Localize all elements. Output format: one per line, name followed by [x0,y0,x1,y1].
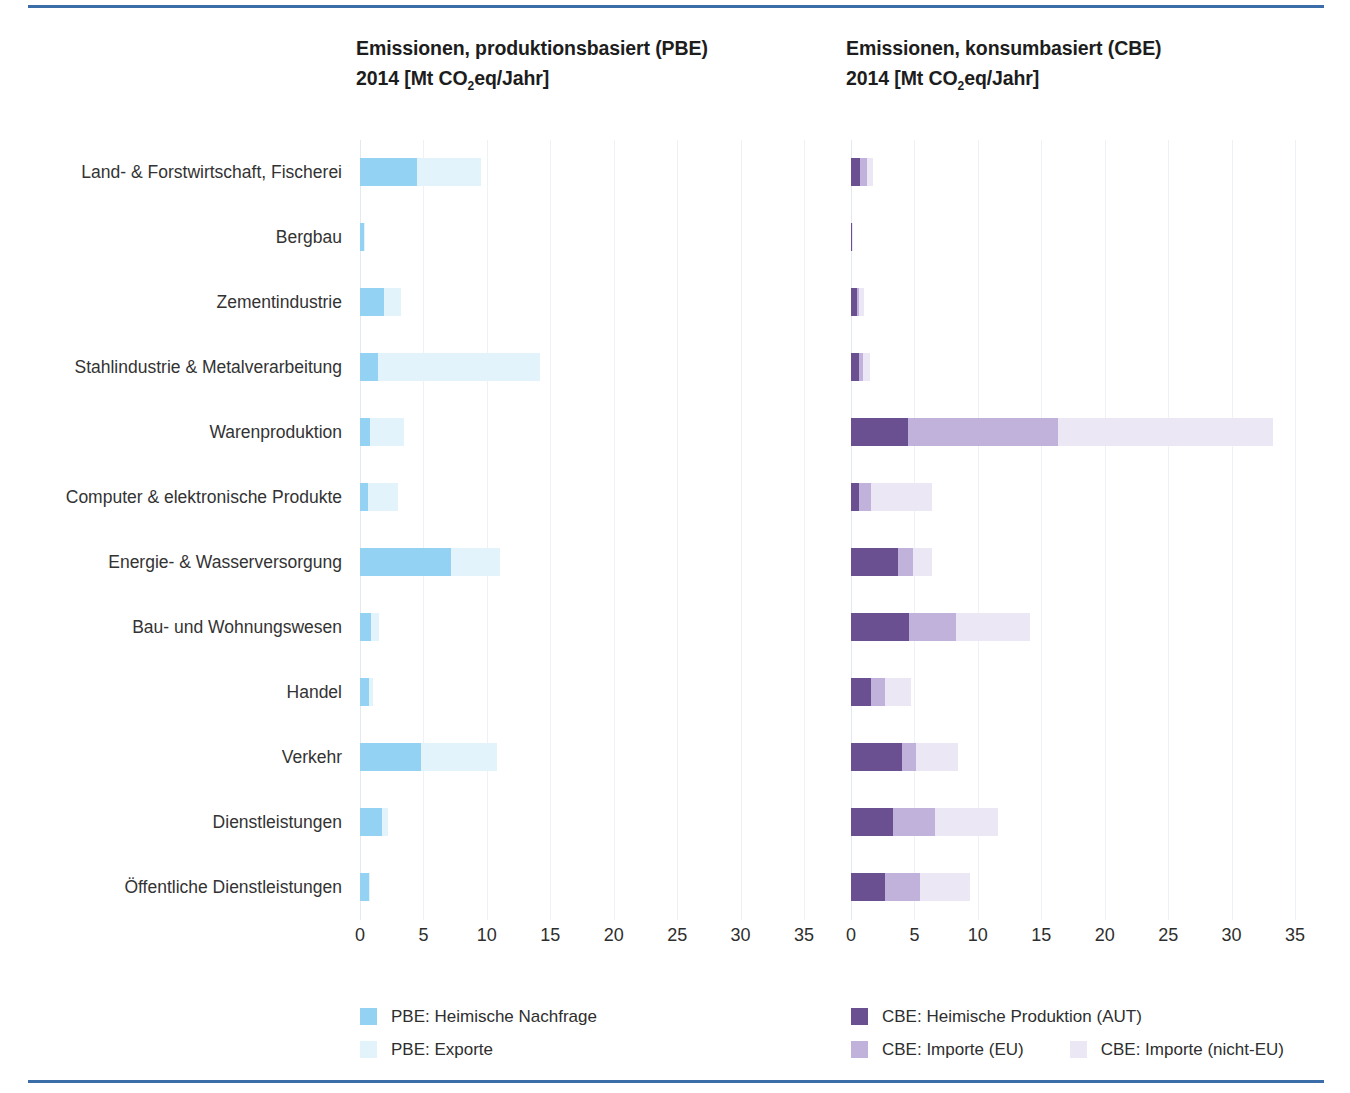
bar-row[interactable] [851,400,1295,465]
bar-row[interactable] [360,725,804,790]
bar-row[interactable] [851,465,1295,530]
legend-item[interactable]: CBE: Importe (nicht-EU) [1070,1033,1284,1066]
bar-segment[interactable] [360,483,368,511]
bar-segment[interactable] [364,223,365,251]
gridline [804,140,805,920]
bar-row[interactable] [851,530,1295,595]
bar-segment[interactable] [360,418,370,446]
legend-label: PBE: Heimische Nachfrage [391,1007,597,1027]
bar-segment[interactable] [421,743,497,771]
bar-segment[interactable] [871,678,885,706]
bar-segment[interactable] [451,548,499,576]
bar-segment[interactable] [859,288,864,316]
bar-segment[interactable] [360,548,451,576]
bar-segment[interactable] [885,678,910,706]
bar-segment[interactable] [871,483,932,511]
bar-segment[interactable] [902,743,916,771]
bar-segment[interactable] [360,808,382,836]
bar-segment[interactable] [417,158,480,186]
bar-segment[interactable] [360,743,421,771]
legend-item[interactable]: CBE: Heimische Produktion (AUT) [851,1000,1284,1033]
bar-row[interactable] [360,335,804,400]
x-axis-tick-label: 30 [1222,925,1242,946]
bar-segment[interactable] [851,743,902,771]
bar-segment[interactable] [867,158,872,186]
bar-row[interactable] [851,270,1295,335]
legend-label: CBE: Heimische Produktion (AUT) [882,1007,1142,1027]
bar-segment[interactable] [851,548,898,576]
bar-segment[interactable] [360,353,378,381]
bar-segment[interactable] [851,808,893,836]
bar-segment[interactable] [956,613,1030,641]
bar-row[interactable] [851,660,1295,725]
bar-segment[interactable] [863,353,870,381]
cbe-plot-area [851,140,1295,920]
legend-item[interactable]: PBE: Heimische Nachfrage [360,1000,597,1033]
bar-segment[interactable] [935,808,998,836]
bar-row[interactable] [360,205,804,270]
bar-segment[interactable] [898,548,913,576]
bar-row[interactable] [851,205,1295,270]
bar-segment[interactable] [851,873,885,901]
bar-segment[interactable] [885,873,919,901]
bar-segment[interactable] [360,873,369,901]
bar-segment[interactable] [860,158,868,186]
cbe-unit-post: eq/Jahr] [964,67,1039,89]
bar-segment[interactable] [908,418,1058,446]
bar-row[interactable] [360,400,804,465]
bar-segment[interactable] [360,678,369,706]
x-axis-tick-label: 0 [846,925,856,946]
bar-segment[interactable] [851,678,871,706]
bar-row[interactable] [851,595,1295,660]
pbe-plot-area [360,140,804,920]
bar-segment[interactable] [368,483,398,511]
bar-segment[interactable] [382,808,388,836]
bar-row[interactable] [851,855,1295,920]
bar-segment[interactable] [1058,418,1274,446]
bar-row[interactable] [851,140,1295,205]
bar-row[interactable] [360,855,804,920]
bar-row[interactable] [851,725,1295,790]
bar-segment[interactable] [851,353,859,381]
bar-segment[interactable] [360,158,417,186]
category-label: Öffentliche Dienstleistungen [10,855,350,920]
bar-row[interactable] [360,270,804,335]
bar-segment[interactable] [916,743,958,771]
pbe-unit-post: eq/Jahr] [474,67,549,89]
legend-item[interactable]: PBE: Exporte [360,1033,597,1066]
bar-segment[interactable] [920,873,971,901]
bar-segment[interactable] [851,483,859,511]
bar-segment[interactable] [369,873,370,901]
bar-segment[interactable] [909,613,956,641]
bar-segment[interactable] [360,613,371,641]
bar-row[interactable] [360,530,804,595]
bar-row[interactable] [360,595,804,660]
bar-segment[interactable] [378,353,540,381]
category-label: Stahlindustrie & Metalverarbeitung [10,335,350,400]
bar-segment[interactable] [859,483,871,511]
bar-row[interactable] [360,790,804,855]
bar-row[interactable] [360,660,804,725]
cbe-legend-import-row: CBE: Importe (EU)CBE: Importe (nicht-EU) [851,1033,1284,1066]
bar-segment[interactable] [851,418,908,446]
legend-item[interactable]: CBE: Importe (EU) [851,1033,1024,1066]
legend-swatch-icon [360,1008,377,1025]
bar-segment[interactable] [893,808,935,836]
bar-row[interactable] [360,140,804,205]
x-axis-tick-label: 10 [968,925,988,946]
bar-row[interactable] [851,790,1295,855]
bar-segment[interactable] [384,288,400,316]
bar-segment[interactable] [360,288,384,316]
bar-segment[interactable] [371,613,379,641]
cbe-chart-title: Emissionen, konsumbasiert (CBE) 2014 [Mt… [846,33,1161,101]
bar-row[interactable] [360,465,804,530]
bar-segment[interactable] [851,158,860,186]
legend-label: CBE: Importe (EU) [882,1040,1024,1060]
bar-segment[interactable] [913,548,932,576]
bar-segment[interactable] [851,613,909,641]
cbe-title-line-1: Emissionen, konsumbasiert (CBE) [846,33,1161,63]
bar-segment[interactable] [369,678,373,706]
bar-segment[interactable] [370,418,404,446]
category-label: Land- & Forstwirtschaft, Fischerei [10,140,350,205]
bar-row[interactable] [851,335,1295,400]
